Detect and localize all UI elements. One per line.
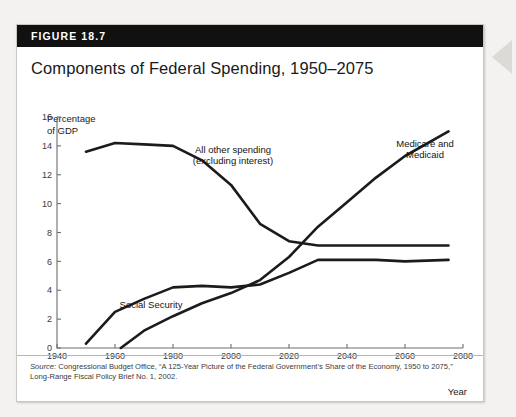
figure-card: FIGURE 18.7 Components of Federal Spendi… — [16, 24, 484, 402]
series-lines: All other spending(excluding interest)Me… — [86, 131, 454, 348]
annotation-line1: Social Security — [120, 299, 183, 310]
y-tick-label: 4 — [47, 285, 52, 295]
x-axis-title: Year — [448, 386, 467, 397]
chart-plot-area: 0246810121416 19401960198020002020204020… — [17, 25, 485, 403]
x-tick-label: 2040 — [337, 351, 357, 361]
y-tick-label: 2 — [47, 314, 52, 324]
page-edge-arrow-icon — [492, 40, 512, 74]
x-tick-label: 1960 — [105, 351, 125, 361]
y-tick-label: 10 — [42, 199, 52, 209]
annotation-social-security: Social Security — [120, 299, 183, 310]
x-tick-label: 2080 — [453, 351, 473, 361]
y-tick-label: 12 — [42, 170, 52, 180]
x-tick-label: 1980 — [163, 351, 183, 361]
y-tick-label: 6 — [47, 257, 52, 267]
annotation-line1: All other spending — [195, 144, 271, 155]
annotation-line2: Medicaid — [406, 149, 444, 160]
annotation-line2: (excluding interest) — [193, 155, 273, 166]
source-prefix: Source: — [30, 362, 56, 371]
y-tick-label: 16 — [42, 112, 52, 122]
y-tick-label: 14 — [42, 141, 52, 151]
source-text: Congressional Budget Office, “A 125-Year… — [30, 362, 453, 381]
source-note: Source: Congressional Budget Office, “A … — [30, 362, 471, 382]
line-chart: 0246810121416 19401960198020002020204020… — [17, 25, 485, 403]
y-tick-label: 8 — [47, 228, 52, 238]
annotation-all-other-spending: All other spending(excluding interest) — [193, 144, 273, 166]
x-tick-label: 2000 — [221, 351, 241, 361]
x-axis: 19401960198020002020204020602080 — [47, 344, 473, 361]
x-tick-label: 2060 — [395, 351, 415, 361]
x-tick-label: 1940 — [47, 351, 67, 361]
x-tick-label: 2020 — [279, 351, 299, 361]
source-divider — [17, 355, 483, 356]
annotation-line1: Medicare and — [396, 138, 454, 149]
